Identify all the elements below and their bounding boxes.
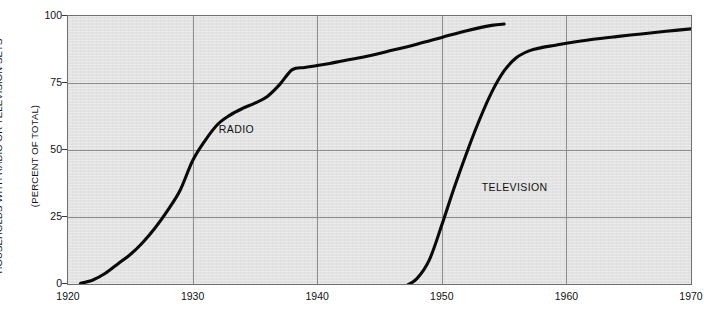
y-axis-tick-label: 25	[28, 210, 62, 222]
series-line-television	[404, 29, 691, 287]
series-line-radio	[80, 24, 504, 283]
chart-root: HOUSEHOLDS WITH RADIO OR TELEVISION SETS…	[0, 0, 704, 312]
x-axis-tick-label: 1970	[679, 290, 702, 302]
y-axis-tick-label: 0	[28, 277, 62, 289]
x-axis-tick-label: 1960	[555, 290, 578, 302]
x-axis-tick-label: 1920	[56, 290, 79, 302]
series-label-television: TELEVISION	[482, 181, 548, 193]
series-curves	[68, 16, 691, 284]
y-axis-title-line-1: HOUSEHOLDS WITH RADIO OR TELEVISION SETS	[0, 39, 5, 274]
x-axis-tick-label: 1930	[181, 290, 204, 302]
series-label-radio: RADIO	[219, 123, 254, 135]
y-axis-tick-label: 50	[28, 143, 62, 155]
y-axis-tick-label: 100	[28, 9, 62, 21]
y-axis-tick-labels: 0255075100	[26, 15, 62, 285]
x-axis-tick-label: 1940	[306, 290, 329, 302]
plot-area: RADIOTELEVISION	[67, 15, 692, 285]
y-axis-tick-label: 75	[28, 76, 62, 88]
x-axis-tick-label: 1950	[430, 290, 453, 302]
x-axis-tick-labels: 192019301940195019601970	[0, 290, 704, 308]
